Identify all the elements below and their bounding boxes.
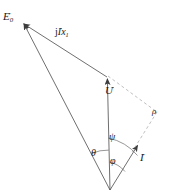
label-corner-mark: ρ — [152, 107, 156, 116]
label-voltage-u: U̇ — [105, 85, 113, 96]
label-reactance-subscript: 1 — [66, 31, 69, 38]
label-angle-phi: φ — [110, 156, 116, 166]
label-angle-psi: ψ — [109, 132, 115, 142]
phasor-diagram-canvas — [0, 0, 171, 196]
label-reactance-drop-jix1: jİx1 — [55, 27, 69, 38]
phasor-diagram-figure: Ė0 jİx1 U̇ İ ψ θ φ ρ — [0, 0, 171, 196]
vector-i — [110, 146, 138, 191]
vector-e0 — [24, 24, 110, 190]
label-emf-e0: Ė0 — [3, 11, 13, 24]
label-emf-subscript: 0 — [10, 16, 13, 23]
label-current-symbol: I — [140, 151, 144, 163]
label-current-i: İ — [140, 152, 144, 163]
dashed-u-to-corner — [108, 76, 157, 112]
label-angle-theta: θ — [91, 148, 96, 158]
dashed-corner-to-i — [132, 112, 157, 152]
label-emf-symbol: E — [3, 10, 10, 22]
label-voltage-symbol: U — [105, 84, 113, 96]
